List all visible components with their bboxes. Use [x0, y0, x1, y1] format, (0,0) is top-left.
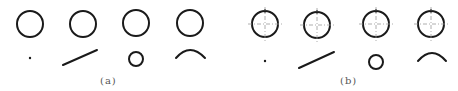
line-primitive-b-2	[299, 52, 334, 68]
figure-canvas	[0, 0, 458, 91]
large-circle-b-4	[418, 11, 444, 37]
large-circle-b-2	[304, 12, 330, 38]
large-circle-b-1	[252, 11, 278, 37]
large-circle-a-4	[177, 10, 203, 36]
arc-primitive-a-4	[176, 50, 205, 58]
circle-primitive-b-3	[369, 55, 383, 69]
large-circle-a-3	[123, 10, 149, 36]
line-primitive-a-2	[63, 50, 97, 65]
geometry-figure: (a) (b)	[0, 0, 458, 91]
point-primitive-b-1	[264, 60, 266, 62]
panel-label-a: (a)	[100, 75, 117, 86]
large-circle-b-3	[363, 11, 389, 37]
circle-primitive-a-3	[129, 52, 143, 66]
point-primitive-a-1	[29, 57, 31, 59]
arc-primitive-b-4	[418, 53, 446, 61]
large-circle-a-1	[17, 11, 43, 37]
panel-label-b: (b)	[340, 75, 357, 86]
large-circle-a-2	[70, 11, 96, 37]
